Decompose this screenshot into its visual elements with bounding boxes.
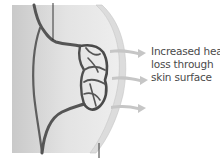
heat-loss-label: Increased heat loss through skin surface: [151, 45, 220, 84]
label-line-2: loss through: [151, 58, 220, 71]
label-line-1: Increased heat: [151, 45, 220, 58]
label-line-3: skin surface: [151, 71, 220, 84]
